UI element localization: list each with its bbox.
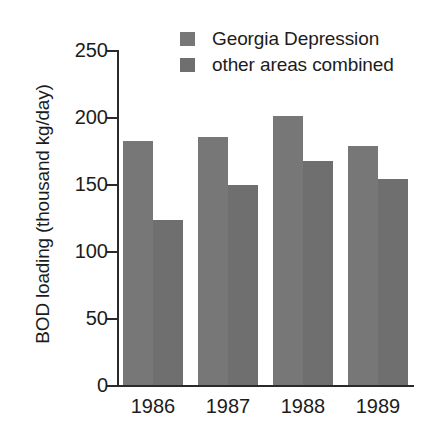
- x-tick-label-1986: 1986: [115, 395, 191, 418]
- y-tick-label: 250: [75, 39, 108, 62]
- legend-item-label: other areas combined: [212, 54, 394, 76]
- bar-1988-series-1: [273, 116, 303, 385]
- y-tick-label: 200: [75, 106, 108, 129]
- bar-1988-series-2: [303, 161, 333, 385]
- bod-loading-bar-chart: BOD loading (thousand kg/day) 0501001502…: [0, 0, 443, 448]
- bar-1986-series-1: [123, 141, 153, 385]
- x-tick-label-1987: 1987: [190, 395, 266, 418]
- y-tick-label: 100: [75, 240, 108, 263]
- legend-swatch-icon: [180, 58, 195, 72]
- y-axis-line: [117, 50, 119, 386]
- legend-swatch-icon: [180, 32, 195, 46]
- y-axis-title: BOD loading (thousand kg/day): [32, 49, 54, 379]
- x-axis-line: [107, 385, 414, 387]
- bar-1987-series-1: [198, 137, 228, 385]
- y-tick-label: 150: [75, 173, 108, 196]
- x-tick-label-1989: 1989: [340, 395, 416, 418]
- chart-legend: Georgia Depressionother areas combined: [180, 26, 394, 78]
- legend-item-label: Georgia Depression: [212, 28, 379, 50]
- bar-1989-series-2: [378, 179, 408, 385]
- legend-item-1: Georgia Depression: [180, 26, 394, 52]
- y-tick-label: 50: [86, 307, 108, 330]
- bar-1987-series-2: [228, 185, 258, 385]
- bar-1986-series-2: [153, 220, 183, 385]
- y-tick-label: 0: [97, 374, 108, 397]
- bar-1989-series-1: [348, 146, 378, 385]
- legend-item-2: other areas combined: [180, 52, 394, 78]
- x-tick-label-1988: 1988: [265, 395, 341, 418]
- plot-area: 050100150200250 1986198719881989: [117, 50, 414, 385]
